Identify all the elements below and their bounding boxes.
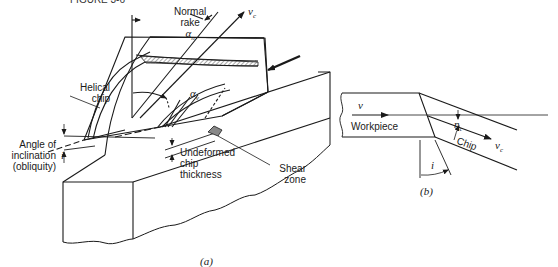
shear-zone-label: Shear zone (272, 163, 306, 185)
workpiece-label: Workpiece (351, 121, 398, 132)
vc-label-a: vc (248, 6, 256, 22)
panel-b-drawing (340, 93, 548, 178)
workpiece-front-face (63, 182, 133, 242)
vc-label-b: vc (495, 140, 503, 156)
inclination-i-symbol-a: i (61, 150, 64, 161)
undeformed-chip-thickness-label: Undeformed chip thickness (180, 147, 235, 180)
helical-chip-label: Helical chip (68, 82, 110, 104)
v-label-b: v (358, 100, 363, 111)
panel-a-caption: (a) (200, 256, 213, 267)
normal-rake-label: Normal rake αn (174, 6, 206, 44)
inclination-i-symbol-b: i (431, 160, 434, 171)
panel-b-caption: (b) (420, 186, 433, 197)
eta-c-label: ηc (454, 119, 463, 135)
alpha-v-label: αv (190, 88, 199, 104)
angle-of-inclination-label: Angle of inclination (obliquity) (0, 139, 56, 172)
